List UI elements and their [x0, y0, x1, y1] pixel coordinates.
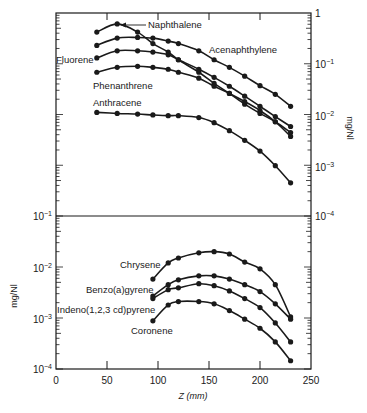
- label-fluorene: Fluorene: [56, 54, 94, 65]
- data-point-marker: [150, 36, 155, 41]
- y-tick-exp: −1: [326, 58, 334, 65]
- label-phenanthrene: Phenanthrene: [93, 80, 153, 91]
- data-point-marker: [212, 84, 217, 89]
- y-tick-base: 10: [315, 211, 327, 222]
- data-point-marker: [94, 110, 99, 115]
- data-point-marker: [150, 112, 155, 117]
- data-point-marker: [196, 76, 201, 81]
- y-tick-base: 10: [33, 263, 45, 274]
- data-point-marker: [115, 36, 120, 41]
- data-point-marker: [257, 326, 262, 331]
- data-point-marker: [288, 339, 293, 344]
- chart-figure: 0 50 100 150 200 250 Z (mm) 1 10−1 10−2 …: [0, 0, 367, 413]
- data-point-marker: [242, 296, 247, 301]
- data-point-marker: [176, 299, 181, 304]
- data-point-marker: [94, 43, 99, 48]
- data-point-marker: [196, 281, 201, 286]
- y-tick-exp: −4: [326, 210, 334, 217]
- data-point-marker: [257, 108, 262, 113]
- data-point-marker: [273, 163, 278, 168]
- x-tick-label: 200: [252, 375, 269, 386]
- data-point-marker: [166, 302, 171, 307]
- data-point-marker: [257, 83, 262, 88]
- data-point-marker: [288, 317, 293, 322]
- data-point-marker: [150, 276, 155, 281]
- y-tick-base: 1: [315, 8, 321, 19]
- label-acenaphthylene: Acenaphthylene: [209, 44, 277, 55]
- data-point-marker: [212, 283, 217, 288]
- data-point-marker: [115, 48, 120, 53]
- series-line: [153, 284, 291, 342]
- data-point-marker: [273, 320, 278, 325]
- data-point-marker: [212, 249, 217, 254]
- label-naphthalene: Naphthalene: [148, 19, 202, 30]
- svg-text:10−2: 10−2: [33, 262, 52, 274]
- data-point-marker: [166, 287, 171, 292]
- x-tick-label: 100: [150, 375, 167, 386]
- data-point-marker: [166, 52, 171, 57]
- label-coronene: Coronene: [131, 325, 173, 336]
- data-point-marker: [257, 149, 262, 154]
- data-point-marker: [273, 114, 278, 119]
- data-point-marker: [273, 282, 278, 287]
- upper-y-tick-labels: 1 10−1 10−2 10−3 10−4: [315, 8, 334, 222]
- data-point-marker: [242, 317, 247, 322]
- data-point-marker: [150, 41, 155, 46]
- x-tick-label: 0: [53, 375, 59, 386]
- x-tick-label: 250: [303, 375, 320, 386]
- svg-text:10−1: 10−1: [33, 210, 52, 222]
- data-point-marker: [166, 67, 171, 72]
- label-indeno-pyrene: Indeno(1,2,3 cd)pyrene: [57, 304, 155, 315]
- data-point-marker: [212, 301, 217, 306]
- data-point-marker: [176, 285, 181, 290]
- data-point-marker: [242, 259, 247, 264]
- y-tick-base: 10: [33, 211, 45, 222]
- x-axis-title: Z (mm): [178, 391, 208, 401]
- data-point-marker: [242, 282, 247, 287]
- data-point-marker: [135, 48, 140, 53]
- data-point-marker: [227, 308, 232, 313]
- data-point-marker: [196, 115, 201, 120]
- data-point-marker: [115, 65, 120, 70]
- data-point-marker: [273, 119, 278, 124]
- data-point-marker: [273, 339, 278, 344]
- data-point-marker: [212, 120, 217, 125]
- svg-text:10−1: 10−1: [315, 58, 334, 70]
- data-point-marker: [150, 296, 155, 301]
- label-anthracene: Anthracene: [93, 97, 142, 108]
- y-tick-exp: −2: [44, 262, 52, 269]
- data-point-marker: [288, 134, 293, 139]
- svg-text:10−4: 10−4: [33, 363, 52, 375]
- y-tick-exp: −3: [44, 313, 52, 320]
- data-point-marker: [288, 104, 293, 109]
- data-point-marker: [176, 57, 181, 62]
- data-point-marker: [135, 35, 140, 40]
- label-benzo-a-pyrene: Benzo(a)gyrene: [86, 284, 154, 295]
- svg-text:10−4: 10−4: [315, 210, 334, 222]
- y-axis-title-right: mg/Nl: [345, 116, 355, 140]
- data-point-marker: [257, 266, 262, 271]
- series-naphthalene: [94, 21, 293, 135]
- data-point-marker: [166, 113, 171, 118]
- data-point-marker: [166, 260, 171, 265]
- series-line: [153, 275, 291, 319]
- data-point-marker: [227, 128, 232, 133]
- data-point-marker: [273, 301, 278, 306]
- data-point-marker: [196, 273, 201, 278]
- x-tick-label: 50: [101, 375, 113, 386]
- plot-frame: [56, 13, 311, 369]
- data-point-marker: [135, 64, 140, 69]
- data-point-marker: [150, 49, 155, 54]
- data-point-marker: [94, 30, 99, 35]
- series-line: [97, 112, 291, 182]
- data-point-marker: [196, 250, 201, 255]
- data-point-marker: [176, 277, 181, 282]
- lower-y-tick-labels: 10−1 10−2 10−3 10−4: [33, 210, 52, 375]
- data-point-marker: [166, 282, 171, 287]
- data-point-marker: [115, 111, 120, 116]
- y-tick-base: 10: [315, 111, 327, 122]
- y-tick-exp: −1: [44, 210, 52, 217]
- label-chrysene: Chrysene: [120, 259, 161, 270]
- data-point-marker: [166, 38, 171, 43]
- y-tick-base: 10: [315, 59, 327, 70]
